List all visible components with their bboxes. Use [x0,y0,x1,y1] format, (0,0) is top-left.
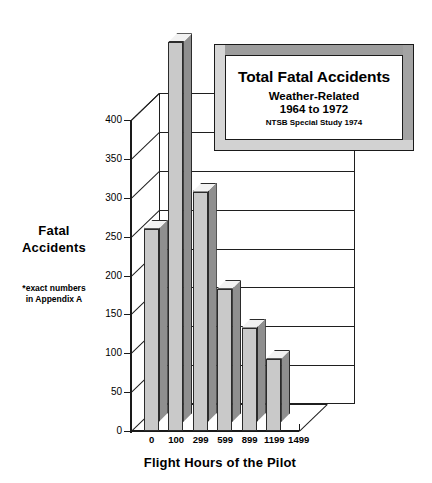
y-tick-label: 100 [88,347,122,358]
x-tick-mark [299,424,300,431]
bar-side-face [208,183,217,422]
plot-floor-right-edge [299,404,328,432]
y-tick-label: 200 [88,270,122,281]
y-tick-label: 250 [88,231,122,242]
y-tick-label: 50 [88,386,122,397]
bar-front-face [266,359,281,431]
bar-side-face [232,280,241,422]
bar-side-face [183,33,192,422]
y-tick-label: 0 [88,425,122,436]
gridline-depth-connector [131,171,160,199]
chart-source: NTSB Special Study 1974 [266,118,362,127]
x-axis-title: Flight Hours of the Pilot [60,455,380,470]
plot-top-left-edge [131,93,160,121]
plaque-bevel-left [215,45,225,150]
chart-figure: Fatal Accidents *exact numbers in Append… [0,0,432,483]
bar-front-face [193,192,208,431]
bar-front-face [217,289,232,431]
plaque-frame: Total Fatal Accidents Weather-Related 19… [214,44,414,151]
y-tick-label: 150 [88,308,122,319]
chart-period: 1964 to 1972 [280,103,348,115]
chart-subtitle: Weather-Related [269,90,360,102]
chart-title: Total Fatal Accidents [238,68,390,86]
y-tick-label: 400 [88,114,122,125]
y-tick-label: 300 [88,192,122,203]
bar-side-face [281,350,290,422]
plaque-bevel-bottom [215,140,413,150]
plaque-bevel-right [403,45,413,150]
bar-side-face [257,319,266,422]
chart-title-plaque: Total Fatal Accidents Weather-Related 19… [214,44,414,151]
bar-front-face [168,42,183,431]
y-axis-line [130,120,132,433]
gridline-depth-connector [131,132,160,160]
x-tick-label: 1499 [282,434,316,445]
y-tick-label: 350 [88,153,122,164]
plaque-inner-panel: Total Fatal Accidents Weather-Related 19… [225,55,403,140]
bar-front-face [144,229,159,431]
bar-side-face [159,220,168,422]
bar-front-face [242,328,257,431]
plaque-bevel-top [215,45,413,55]
